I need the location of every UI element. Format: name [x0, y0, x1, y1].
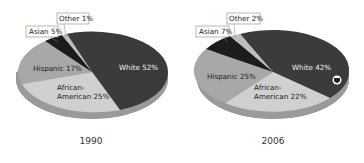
pie-chart-1990: Asian 5% Other 1% Hispanic 17% White 52%…	[0, 0, 182, 163]
label-african-line1: African-	[57, 83, 85, 92]
label-asian: Asian 7%	[199, 27, 232, 36]
shield-icon	[333, 76, 342, 85]
label-white: White 52%	[119, 63, 158, 72]
label-other: Other 2%	[229, 14, 263, 23]
year-label-1990: 1990	[0, 136, 182, 146]
label-african-line2: American 22%	[254, 92, 307, 101]
label-african-line2: American 25%	[57, 92, 110, 101]
label-white: White 42%	[292, 63, 331, 72]
label-hispanic: Hispanic 17%	[33, 64, 82, 73]
label-african-line1: African-	[254, 83, 282, 92]
label-hispanic: Hispanic 25%	[207, 72, 256, 81]
label-other: Other 1%	[59, 14, 93, 23]
label-asian: Asian 5%	[29, 27, 62, 36]
year-label-2006: 2006	[182, 136, 364, 146]
pie-chart-2006: Asian 7% Other 2% Hispanic 25% White 42%…	[182, 0, 364, 163]
